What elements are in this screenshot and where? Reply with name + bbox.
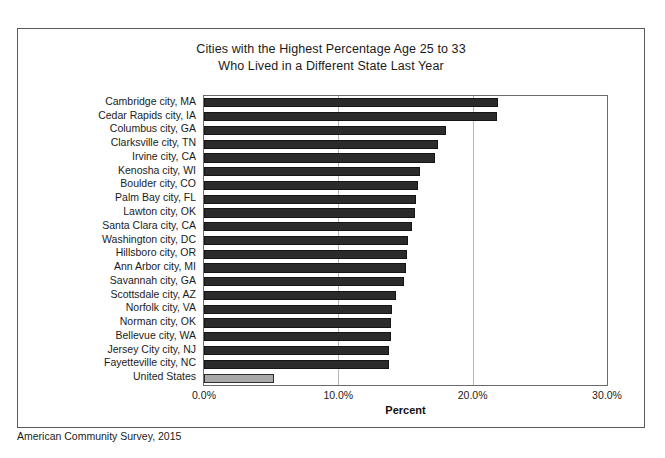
y-axis-label: Hillsboro city, OR [116, 247, 196, 258]
bar-row [204, 179, 607, 193]
y-axis-label: Columbus city, GA [110, 123, 196, 134]
y-axis-label: Ann Arbor city, MI [114, 261, 196, 272]
y-axis-label: Clarksville city, TN [111, 137, 196, 148]
bar [204, 346, 389, 355]
x-tick-label: 0.0% [192, 389, 216, 401]
bar-row [204, 289, 607, 303]
bar [204, 222, 412, 231]
y-axis-label: Cedar Rapids city, IA [98, 110, 196, 121]
y-axis-label: Bellevue city, WA [115, 330, 196, 341]
plot-wrapper [203, 95, 608, 386]
bar [204, 250, 407, 259]
y-axis-label: Washington city, DC [102, 234, 196, 245]
y-axis-label: Santa Clara city, CA [102, 220, 196, 231]
bar-row [204, 247, 607, 261]
y-axis-label: Lawton city, OK [123, 206, 196, 217]
bar-row [204, 371, 607, 385]
bar-row [204, 206, 607, 220]
bar-row [204, 151, 607, 165]
bar [204, 195, 416, 204]
bar-row [204, 165, 607, 179]
bar-row [204, 261, 607, 275]
plot-area [203, 95, 608, 386]
bar [204, 360, 389, 369]
bar-row [204, 344, 607, 358]
x-tick-label: 10.0% [323, 389, 353, 401]
bar [204, 208, 415, 217]
y-axis-label: United States [133, 371, 196, 382]
bar [204, 126, 446, 135]
bar [204, 305, 392, 314]
bar-row [204, 137, 607, 151]
chart-title-line-2: Who Lived in a Different State Last Year [18, 58, 644, 75]
bar [204, 112, 497, 121]
x-axis-tick-labels: 0.0%10.0%20.0%30.0% [203, 389, 608, 405]
bar-row [204, 357, 607, 371]
bar [204, 318, 391, 327]
bar [204, 181, 418, 190]
bar-row [204, 234, 607, 248]
bar [204, 153, 435, 162]
y-axis-label: Irvine city, CA [132, 151, 196, 162]
y-axis-label: Scottsdale city, AZ [110, 289, 196, 300]
bar [204, 332, 391, 341]
y-axis-label: Palm Bay city, FL [115, 192, 196, 203]
x-tick-label: 20.0% [458, 389, 488, 401]
chart-figure: Cities with the Highest Percentage Age 2… [17, 28, 645, 428]
y-axis-label: Norman city, OK [120, 316, 196, 327]
bar-row [204, 96, 607, 110]
bar-row [204, 124, 607, 138]
bar [204, 374, 274, 383]
y-axis-label: Cambridge city, MA [105, 96, 196, 107]
y-axis-label: Jersey City city, NJ [108, 344, 196, 355]
x-axis-title: Percent [203, 404, 608, 416]
bar-row [204, 110, 607, 124]
bar [204, 98, 498, 107]
bar [204, 263, 406, 272]
y-axis-label: Norfolk city, VA [126, 302, 196, 313]
y-axis-label: Boulder city, CO [120, 178, 196, 189]
y-axis-label: Savannah city, GA [110, 275, 196, 286]
bar-series [204, 96, 607, 385]
bar [204, 236, 408, 245]
bar-row [204, 330, 607, 344]
bar-row [204, 220, 607, 234]
bar-row [204, 316, 607, 330]
y-axis-label: Fayetteville city, NC [104, 357, 196, 368]
bar [204, 167, 420, 176]
bar [204, 277, 404, 286]
bar [204, 140, 438, 149]
chart-title-line-1: Cities with the Highest Percentage Age 2… [18, 41, 644, 58]
chart-title: Cities with the Highest Percentage Age 2… [18, 41, 644, 75]
bar-row [204, 275, 607, 289]
y-axis-category-labels: Cambridge city, MACedar Rapids city, IAC… [18, 95, 201, 386]
source-note: American Community Survey, 2015 [17, 430, 181, 442]
bar-row [204, 302, 607, 316]
bar-row [204, 192, 607, 206]
x-tick-label: 30.0% [592, 389, 622, 401]
y-axis-label: Kenosha city, WI [118, 165, 196, 176]
bar [204, 291, 396, 300]
